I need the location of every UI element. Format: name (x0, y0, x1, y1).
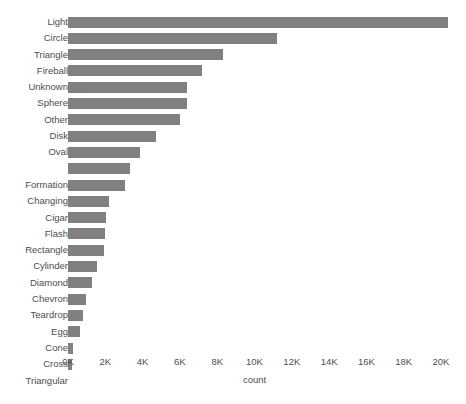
plot-area: LightCircleTriangleFireballUnknownSphere… (0, 14, 466, 354)
x-tick-label: 14K (321, 356, 338, 368)
category-label: Rectangle (0, 242, 68, 258)
bar[interactable] (68, 114, 180, 125)
category-label: Sphere (0, 95, 68, 111)
bar[interactable] (68, 33, 277, 44)
category-label: Formation (0, 177, 68, 193)
bar-row[interactable]: Egg (0, 324, 466, 340)
x-tick-label: 8K (211, 356, 223, 368)
bar[interactable] (68, 163, 130, 174)
category-label: Teardrop (0, 307, 68, 323)
bar-chart: LightCircleTriangleFireballUnknownSphere… (0, 0, 466, 404)
bar[interactable] (68, 17, 448, 28)
category-label: Diamond (0, 275, 68, 291)
category-label: Flash (0, 226, 68, 242)
x-tick-label: 12K (283, 356, 300, 368)
category-label: Disk (0, 128, 68, 144)
category-label: Unknown (0, 79, 68, 95)
bar[interactable] (68, 49, 223, 60)
bar[interactable] (68, 277, 92, 288)
category-label: Other (0, 112, 68, 128)
x-axis-title-label: count (243, 374, 266, 385)
category-label: Chevron (0, 291, 68, 307)
bar-row[interactable]: Chevron (0, 291, 466, 307)
bar-row[interactable]: Formation (0, 177, 466, 193)
x-tick-label: 6K (174, 356, 186, 368)
category-label: Cigar (0, 210, 68, 226)
bar[interactable] (68, 65, 202, 76)
category-label: Light (0, 14, 68, 30)
category-label: Triangle (0, 47, 68, 63)
bar-row[interactable]: Triangle (0, 47, 466, 63)
bar-row[interactable]: Diamond (0, 275, 466, 291)
bar[interactable] (68, 147, 140, 158)
category-label: Cone (0, 340, 68, 356)
bar-row[interactable]: Rectangle (0, 242, 466, 258)
bar[interactable] (68, 98, 187, 109)
bar-row[interactable]: Flash (0, 226, 466, 242)
x-tick-label: 18K (395, 356, 412, 368)
x-tick-label: 10K (246, 356, 263, 368)
bar[interactable] (68, 326, 80, 337)
bar[interactable] (68, 294, 86, 305)
bar[interactable] (68, 310, 83, 321)
bar[interactable] (68, 196, 109, 207)
bar-row[interactable]: Teardrop (0, 307, 466, 323)
bar[interactable] (68, 82, 187, 93)
category-label: Circle (0, 30, 68, 46)
bar-row[interactable]: Cigar (0, 210, 466, 226)
bar-row[interactable]: Cone (0, 340, 466, 356)
x-tick-label: 16K (358, 356, 375, 368)
bar[interactable] (68, 131, 156, 142)
x-tick-label: 2K (99, 356, 111, 368)
bar-row[interactable]: Fireball (0, 63, 466, 79)
x-axis: 0K2K4K6K8K10K12K14K16K18K20K (0, 356, 466, 372)
bar-row[interactable] (0, 161, 466, 177)
category-label: Egg (0, 324, 68, 340)
bar-row[interactable]: Changing (0, 193, 466, 209)
bar[interactable] (68, 180, 125, 191)
bar-row[interactable]: Cylinder (0, 258, 466, 274)
bar-row[interactable]: Oval (0, 144, 466, 160)
bar[interactable] (68, 228, 105, 239)
bar-row[interactable]: Sphere (0, 95, 466, 111)
bar[interactable] (68, 343, 73, 354)
category-label: Oval (0, 144, 68, 160)
x-tick-label: 20K (433, 356, 450, 368)
bar-row[interactable]: Light (0, 14, 466, 30)
bar[interactable] (68, 245, 104, 256)
bar-row[interactable]: Other (0, 112, 466, 128)
bar[interactable] (68, 212, 106, 223)
x-tick-label: 0K (62, 356, 74, 368)
bar-row[interactable]: Circle (0, 30, 466, 46)
x-tick-label: 4K (137, 356, 149, 368)
x-axis-title: count (0, 374, 466, 385)
bar-row[interactable]: Disk (0, 128, 466, 144)
bar[interactable] (68, 261, 97, 272)
category-label: Changing (0, 193, 68, 209)
bar-row[interactable]: Unknown (0, 79, 466, 95)
category-label: Fireball (0, 63, 68, 79)
category-label: Cylinder (0, 258, 68, 274)
